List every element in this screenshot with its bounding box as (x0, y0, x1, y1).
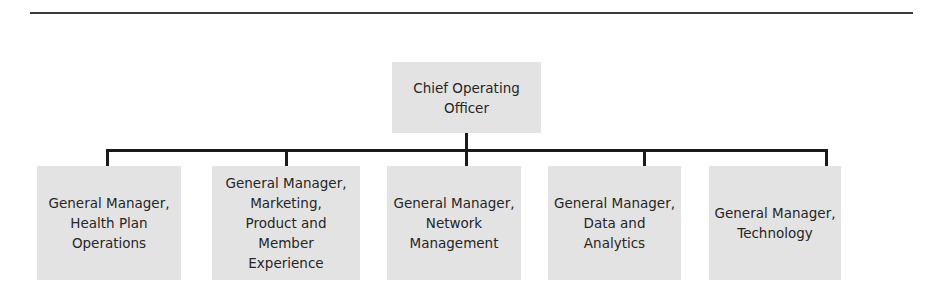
node-label: General Manager, Health Plan Operations (49, 193, 170, 253)
node-label: Chief Operating Officer (413, 78, 520, 118)
node-label: General Manager, Marketing, Product and … (226, 173, 347, 273)
node-gm-marketing-product-member-experience: General Manager, Marketing, Product and … (212, 166, 360, 280)
connector-horizontal-bus (106, 149, 828, 152)
node-gm-technology: General Manager, Technology (709, 166, 841, 280)
node-label: General Manager, Data and Analytics (554, 193, 675, 253)
node-chief-operating-officer: Chief Operating Officer (392, 62, 541, 133)
node-label: General Manager, Network Management (394, 193, 515, 253)
connector-child-2 (285, 149, 288, 166)
connector-child-5 (825, 149, 828, 166)
node-gm-network-management: General Manager, Network Management (387, 166, 521, 280)
connector-child-4 (643, 149, 646, 166)
node-gm-data-and-analytics: General Manager, Data and Analytics (548, 166, 681, 280)
node-label: General Manager, Technology (715, 203, 836, 243)
node-gm-health-plan-operations: General Manager, Health Plan Operations (37, 166, 181, 280)
connector-child-1 (106, 149, 109, 166)
top-rule (30, 12, 913, 14)
